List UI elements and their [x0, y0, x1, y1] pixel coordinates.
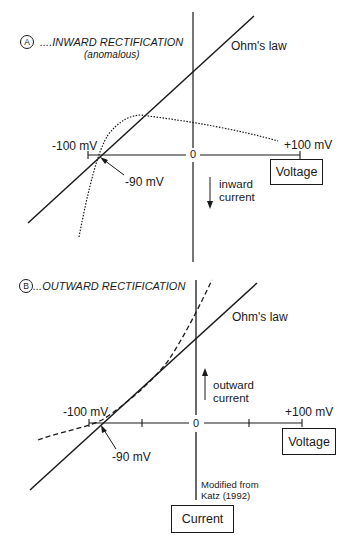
- voltage-box-text: Voltage: [276, 165, 318, 179]
- panel-b-current-box: Current: [171, 505, 234, 533]
- panel-a-x-min-label: -100 mV: [52, 140, 97, 152]
- panel-b-reversal-label: -90 mV: [112, 451, 151, 463]
- panel-b-current-direction: outward current: [213, 379, 254, 405]
- inward-label: inward: [219, 178, 255, 191]
- panel-b-x-max-label: +100 mV: [285, 406, 333, 418]
- panel-a-reversal-label: -90 mV: [125, 176, 164, 188]
- credit-line-1: Modified from: [201, 479, 259, 490]
- current-box-text: Current: [182, 512, 224, 526]
- panel-a-badge-text: A: [24, 37, 30, 47]
- panel-b-badge-text: B: [23, 281, 29, 291]
- panel-a-x-max-label: +100 mV: [284, 139, 332, 151]
- panel-b-ohms-law-label: Ohm's law: [232, 311, 288, 323]
- panel-b-x-min-label: -100 mV: [63, 406, 108, 418]
- credit-note: Modified from Katz (1992): [201, 479, 259, 502]
- panel-a-ohms-law-label: Ohm's law: [231, 40, 287, 52]
- panel-a-current-direction: inward current: [219, 178, 255, 204]
- panel-b-origin-label: 0: [193, 418, 199, 429]
- panel-a-badge: A: [20, 35, 34, 49]
- panel-b-badge: B: [19, 279, 33, 293]
- panel-b-voltage-box: Voltage: [282, 428, 336, 455]
- panel-a-origin-label: 0: [190, 149, 196, 160]
- panel-a-rectification-curve: [79, 115, 278, 237]
- outward-label: outward: [213, 379, 254, 392]
- current-label: current: [213, 392, 254, 405]
- panel-a-title: ....INWARD RECTIFICATION: [40, 37, 183, 48]
- panel-a-voltage-box: Voltage: [270, 159, 323, 185]
- current-label: current: [219, 191, 255, 204]
- panel-a-subtitle: (anomalous): [84, 50, 140, 60]
- credit-line-2: Katz (1992): [201, 490, 259, 501]
- iv-curves-diagram: [0, 0, 349, 547]
- voltage-box-text: Voltage: [288, 435, 330, 449]
- panel-b-title: ...OUTWARD RECTIFICATION: [33, 281, 185, 292]
